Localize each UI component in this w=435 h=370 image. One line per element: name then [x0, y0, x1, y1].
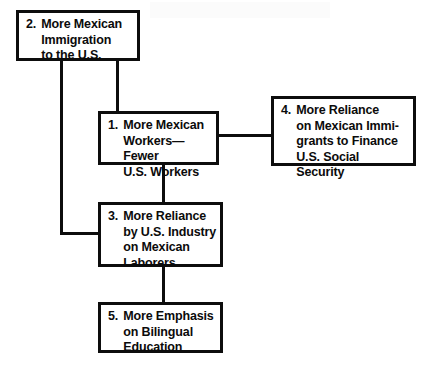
flowchart-node-1-content: 1. More Mexican Workers—Fewer U.S. Worke…: [108, 118, 213, 180]
connector-node1-to-node4-horizontal: [217, 134, 273, 137]
flowchart-node-5-label: More Emphasis on Bilingual Education: [123, 309, 217, 356]
flowchart-diagram: 2. More Mexican Immigration to the U.S. …: [0, 0, 435, 370]
scan-artifact: [150, 2, 330, 18]
flowchart-node-4-label: More Reliance on Mexican Immi- grants to…: [296, 103, 410, 181]
flowchart-node-1: 1. More Mexican Workers—Fewer U.S. Worke…: [98, 111, 219, 165]
flowchart-node-5-content: 5. More Emphasis on Bilingual Education: [108, 309, 217, 356]
flowchart-node-1-label: More Mexican Workers—Fewer U.S. Workers: [123, 118, 213, 180]
flowchart-node-3-label: More Reliance by U.S. Industry on Mexica…: [123, 209, 217, 271]
flowchart-node-2-content: 2. More Mexican Immigration to the U.S.: [26, 17, 134, 64]
connector-node2-to-node3-vertical: [60, 60, 63, 235]
flowchart-node-4-number: 4.: [281, 103, 296, 119]
connector-node2-to-node1-vertical: [116, 60, 119, 113]
flowchart-node-2: 2. More Mexican Immigration to the U.S.: [16, 10, 140, 61]
flowchart-node-4: 4. More Reliance on Mexican Immi- grants…: [271, 96, 416, 166]
flowchart-node-5: 5. More Emphasis on Bilingual Education: [98, 302, 223, 353]
flowchart-node-2-label: More Mexican Immigration to the U.S.: [41, 17, 134, 64]
connector-node2-to-node3-horizontal: [60, 232, 102, 235]
flowchart-node-4-content: 4. More Reliance on Mexican Immi- grants…: [281, 103, 410, 181]
flowchart-node-2-number: 2.: [26, 17, 41, 33]
flowchart-node-3: 3. More Reliance by U.S. Industry on Mex…: [98, 202, 223, 267]
flowchart-node-1-number: 1.: [108, 118, 123, 134]
flowchart-node-5-number: 5.: [108, 309, 123, 325]
flowchart-node-3-number: 3.: [108, 209, 123, 225]
flowchart-node-3-content: 3. More Reliance by U.S. Industry on Mex…: [108, 209, 217, 271]
